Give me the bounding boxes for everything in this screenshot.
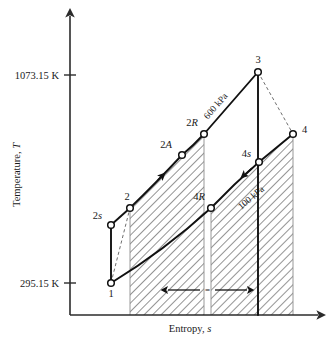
state-label-4s: 4s	[242, 148, 251, 159]
state-point-4s	[256, 159, 263, 166]
state-label-1: 1	[108, 288, 113, 299]
state-label-3-num: 3	[255, 54, 260, 65]
x-axis-title-text: Entropy,	[169, 323, 207, 334]
hatched-area-heat-rejection	[211, 134, 293, 315]
state-label-2R-suffix: R	[191, 117, 199, 128]
state-label-4-num: 4	[302, 124, 308, 135]
state-label-2A-suffix: A	[165, 139, 173, 150]
process-3-4-actual	[258, 72, 293, 134]
y-tick-label-high: 1073.15 K	[15, 70, 60, 81]
pressure-label-600kpa-text: 600 kPa	[202, 91, 230, 121]
x-axis-title-symbol: s	[207, 323, 211, 334]
state-point-4	[290, 131, 297, 138]
state-label-2-num: 2	[124, 191, 129, 202]
state-label-4R-suffix: R	[198, 191, 206, 202]
state-point-2A	[179, 152, 186, 159]
state-label-4: 4	[302, 124, 308, 135]
state-point-2s	[108, 222, 115, 229]
state-point-1	[108, 280, 115, 287]
y-axis-title-symbol: T	[11, 142, 22, 149]
state-label-2R: 2R	[186, 117, 198, 128]
y-tick-label-low: 295.15 K	[20, 278, 60, 289]
state-point-2	[127, 205, 134, 212]
state-label-1-num: 1	[108, 288, 113, 299]
state-point-3	[255, 69, 262, 76]
y-axis-title-text: Temperature,	[11, 149, 22, 207]
ts-diagram-svg: = 1073.15 K 295.15 K Temperature, T Entr…	[0, 0, 333, 347]
state-point-4R	[208, 205, 215, 212]
state-label-2A: 2A	[160, 139, 172, 150]
pressure-label-600kpa: 600 kPa	[202, 91, 230, 121]
state-label-2: 2	[124, 191, 129, 202]
state-point-2R	[201, 131, 208, 138]
state-label-4s-suffix: s	[247, 148, 251, 159]
state-label-3: 3	[255, 54, 260, 65]
x-axis-title: Entropy, s	[169, 323, 212, 334]
y-axis-title: Temperature, T	[11, 142, 22, 207]
ts-diagram-figure: = 1073.15 K 295.15 K Temperature, T Entr…	[0, 0, 333, 347]
state-label-2s-suffix: s	[98, 210, 102, 221]
equal-sign-label: =	[205, 285, 210, 295]
state-label-2s: 2s	[93, 210, 102, 221]
state-label-4R: 4R	[193, 191, 205, 202]
svg-text:Temperature, T: Temperature, T	[11, 142, 22, 207]
